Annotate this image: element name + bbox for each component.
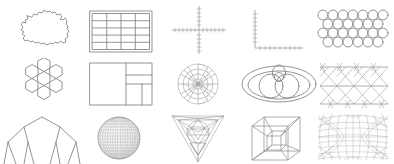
polar-grid-icon xyxy=(168,58,228,110)
hexagon-flower-icon xyxy=(12,58,76,110)
figure-nested-triangle-tetrahedron xyxy=(164,110,232,164)
irregular-blob-icon xyxy=(10,4,80,56)
venn-diagram-icon xyxy=(238,58,320,110)
l-axes-icon xyxy=(246,4,314,56)
tesseract-icon xyxy=(244,112,308,164)
figure-sheet xyxy=(0,0,394,164)
figure-polar-radial-grid xyxy=(168,58,228,110)
projection-mesh-icon xyxy=(314,110,392,164)
wireframe-sphere-icon xyxy=(90,112,148,164)
figure-cross-axes-with-ticks xyxy=(166,2,232,56)
figure-rectangular-grid-table xyxy=(86,6,156,56)
figure-hexagonal-circle-packing xyxy=(314,4,392,56)
grid-table-icon xyxy=(86,6,156,56)
figure-irregular-blob-contour xyxy=(10,4,80,56)
cross-axes-icon xyxy=(166,2,232,56)
lattice-truss-icon xyxy=(316,58,392,110)
figure-venn-ellipse-diagram xyxy=(238,58,320,110)
figure-hexagon-flower-tiling xyxy=(12,58,76,110)
figure-branching-arch-tree xyxy=(2,112,82,164)
figure-l-shaped-axes xyxy=(246,4,314,56)
figure-curved-projection-mesh xyxy=(314,110,392,164)
circle-packing-icon xyxy=(314,4,392,56)
branching-tree-icon xyxy=(2,112,82,164)
figure-triangular-lattice-truss xyxy=(316,58,392,110)
figure-treemap-layout xyxy=(86,58,156,110)
tetrahedron-icon xyxy=(164,110,232,164)
figure-wireframe-sphere xyxy=(90,112,148,164)
treemap-icon xyxy=(86,58,156,110)
figure-tesseract-hypercube xyxy=(244,112,308,164)
